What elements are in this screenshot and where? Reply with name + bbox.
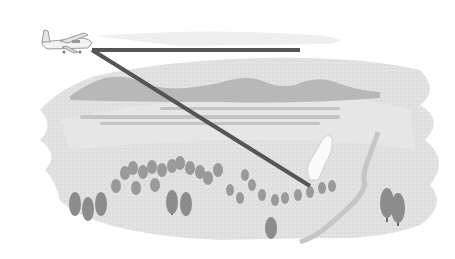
illustration-scene xyxy=(0,0,455,259)
airplane-icon xyxy=(42,30,92,54)
sky-haze xyxy=(95,31,340,46)
illustration-canvas xyxy=(0,0,455,259)
